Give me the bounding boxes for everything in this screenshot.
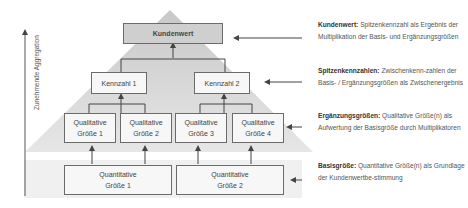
qualitative-4-box: Qualitative Größe 4 bbox=[232, 113, 284, 143]
description-spitzenkennzahlen: Spitzenkennzahlen: Zwischenkenn-zahlen d… bbox=[318, 65, 468, 90]
quantitative-line2: Größe 2 bbox=[217, 180, 243, 191]
qualitative-1-box: Qualitative Größe 1 bbox=[64, 113, 116, 143]
qualitative-2-box: Qualitative Größe 2 bbox=[120, 113, 172, 143]
kundenwert-label: Kundenwert bbox=[153, 28, 193, 39]
axis-label: Zunehmende Aggregation bbox=[33, 35, 40, 110]
quantitative-line1: Quantitative bbox=[211, 169, 248, 180]
qualitative-3-box: Qualitative Größe 3 bbox=[175, 113, 227, 143]
kennzahl-label: Kennzahl 2 bbox=[204, 78, 239, 89]
qualitative-line2: Größe 2 bbox=[133, 128, 159, 139]
kennzahl-label: Kennzahl 1 bbox=[101, 78, 136, 89]
description-term: Basisgröße: bbox=[318, 162, 356, 169]
qualitative-line1: Qualitative bbox=[241, 117, 274, 128]
description-term: Ergänzungsgrößen: bbox=[318, 112, 380, 119]
description-term: Spitzenkennzahlen: bbox=[318, 67, 380, 74]
qualitative-line1: Qualitative bbox=[73, 117, 106, 128]
kennzahl-1-box: Kennzahl 1 bbox=[91, 72, 147, 94]
description-term: Kundenwert: bbox=[318, 21, 358, 28]
qualitative-line2: Größe 1 bbox=[77, 128, 103, 139]
description-ergaenzungsgroessen: Ergänzungsgrößen: Qualitative Größe(n) a… bbox=[318, 110, 468, 135]
qualitative-line2: Größe 4 bbox=[245, 128, 271, 139]
kennzahl-2-box: Kennzahl 2 bbox=[194, 72, 250, 94]
qualitative-line1: Qualitative bbox=[129, 117, 162, 128]
quantitative-line1: Quantitative bbox=[99, 169, 136, 180]
qualitative-line1: Qualitative bbox=[184, 117, 217, 128]
qualitative-line2: Größe 3 bbox=[188, 128, 214, 139]
quantitative-1-box: Quantitative Größe 1 bbox=[64, 165, 172, 195]
quantitative-2-box: Quantitative Größe 2 bbox=[176, 165, 284, 195]
kundenwert-box: Kundenwert bbox=[123, 23, 223, 44]
quantitative-line2: Größe 1 bbox=[105, 180, 131, 191]
description-basisgroesse: Basisgröße: Quantitative Größe(n) als Gr… bbox=[318, 160, 468, 185]
description-kundenwert: Kundenwert: Spitzenkennzahl als Ergebnis… bbox=[318, 19, 468, 44]
